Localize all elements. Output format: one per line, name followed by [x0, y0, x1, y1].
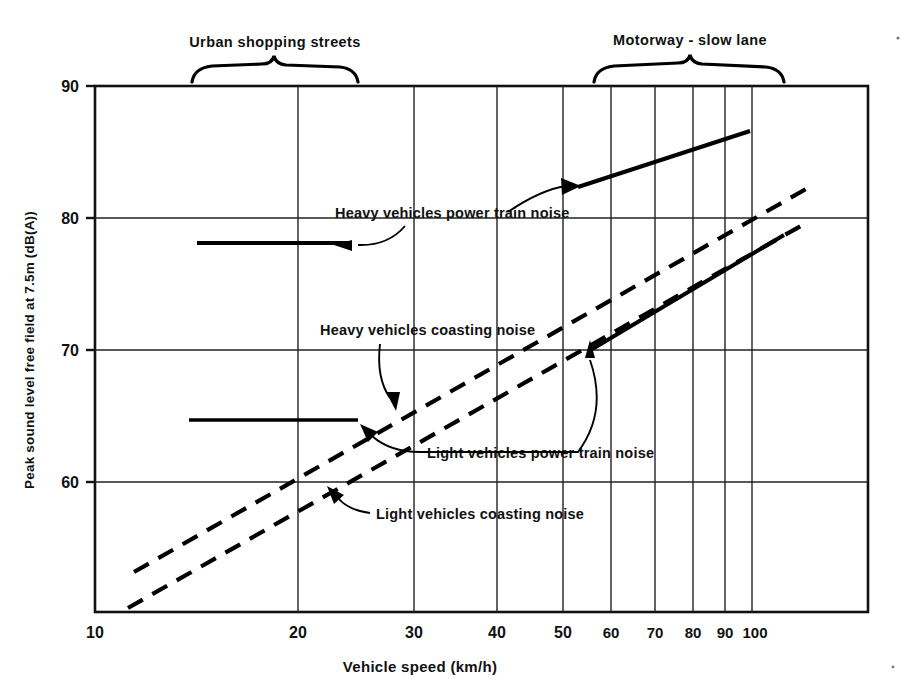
y-tick-70: 70: [61, 342, 79, 359]
x-tick-60: 60: [603, 624, 620, 641]
label-light-vehicles-power-train-noise: Light vehicles power train noise: [427, 445, 654, 461]
x-tick-40: 40: [488, 624, 506, 641]
label-heavy-vehicles-power-train-noise: Heavy vehicles power train noise: [335, 205, 569, 221]
noise-vs-speed-figure: 90 80 70 60 Peak sound level free field …: [0, 0, 914, 687]
x-tick-90: 90: [717, 624, 734, 641]
figure-background: [0, 0, 914, 687]
x-tick-10: 10: [86, 624, 104, 641]
chart-canvas: 90 80 70 60 Peak sound level free field …: [0, 0, 914, 687]
y-tick-90: 90: [61, 78, 79, 95]
x-tick-20: 20: [289, 624, 307, 641]
x-tick-70: 70: [647, 624, 664, 641]
motorway-bracket-label: Motorway - slow lane: [613, 32, 767, 48]
y-tick-60: 60: [61, 474, 79, 491]
x-axis-title: Vehicle speed (km/h): [343, 658, 497, 675]
x-tick-50: 50: [554, 624, 572, 641]
label-light-vehicles-coasting-noise: Light vehicles coasting noise: [376, 506, 584, 522]
x-tick-80: 80: [685, 624, 702, 641]
urban-bracket-label: Urban shopping streets: [189, 34, 361, 50]
y-axis-title: Peak sound level free field at 7.5m (dB(…: [22, 211, 37, 489]
label-heavy-vehicles-coasting-noise: Heavy vehicles coasting noise: [320, 322, 535, 338]
y-tick-80: 80: [61, 210, 79, 227]
x-tick-30: 30: [405, 624, 423, 641]
x-tick-100: 100: [742, 624, 767, 641]
